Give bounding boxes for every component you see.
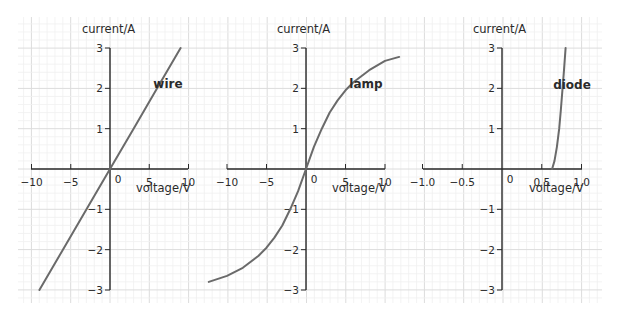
x-axis-title: voltage/V: [136, 181, 191, 195]
figure-canvas: −10−50510−3−2−1123current/Avoltage/Vwire…: [0, 0, 627, 316]
y-tick-label: 2: [96, 82, 103, 94]
x-tick-label: 0: [311, 173, 318, 185]
x-tick-label: 0: [115, 173, 122, 185]
x-axis-title: voltage/V: [332, 181, 387, 195]
y-tick-label: −1: [480, 203, 495, 215]
chart-wire: −10−50510−3−2−1123current/Avoltage/Vwire: [20, 22, 195, 296]
iv-characteristics-figure: −10−50510−3−2−1123current/Avoltage/Vwire…: [0, 0, 627, 316]
x-tick-label: −0.5: [450, 176, 476, 188]
curve-label: lamp: [349, 77, 383, 91]
chart-diode: −1.0−0.500.51.0−3−2−1123current/Avoltage…: [410, 22, 591, 296]
curve-label: diode: [553, 78, 591, 92]
x-tick-label: −5: [63, 176, 78, 188]
x-tick-label: 0: [507, 173, 514, 185]
y-tick-label: 3: [292, 42, 299, 54]
y-tick-label: 1: [488, 123, 495, 135]
y-tick-label: 3: [96, 42, 103, 54]
x-tick-label: −10: [20, 176, 42, 188]
y-tick-label: −3: [284, 284, 299, 296]
curve-label: wire: [153, 77, 182, 91]
y-axis-title: current/A: [82, 22, 135, 36]
y-tick-label: −2: [284, 244, 299, 256]
x-axis-title: voltage/V: [529, 181, 584, 195]
y-axis-title: current/A: [277, 22, 330, 36]
y-tick-label: 3: [488, 42, 495, 54]
chart-lamp: −10−50510−3−2−1123current/Avoltage/Vlamp: [209, 22, 399, 296]
y-tick-label: −3: [480, 284, 495, 296]
x-tick-label: −10: [216, 176, 238, 188]
y-tick-label: 2: [292, 82, 299, 94]
y-tick-label: −3: [88, 284, 103, 296]
y-tick-label: 2: [488, 82, 495, 94]
x-tick-label: −5: [259, 176, 274, 188]
x-tick-label: −1.0: [410, 176, 436, 188]
y-tick-label: 1: [292, 123, 299, 135]
curve-diode: [552, 48, 566, 169]
y-tick-label: −2: [88, 244, 103, 256]
y-tick-label: −2: [480, 244, 495, 256]
y-tick-label: 1: [96, 123, 103, 135]
y-axis-title: current/A: [473, 22, 526, 36]
